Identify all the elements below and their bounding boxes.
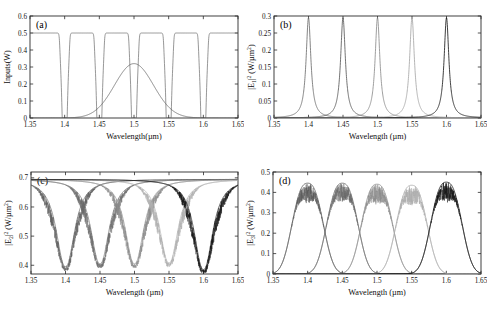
panel-a: 1.351.41.451.51.551.61.6500.10.20.30.40.… xyxy=(0,0,244,155)
plot-frame xyxy=(274,16,481,118)
panel-d: 1.351.41.451.51.551.61.6500.10.20.30.40.… xyxy=(243,154,487,309)
y-tick-label: 0.05 xyxy=(258,98,271,106)
y-tick-label: 0.5 xyxy=(18,30,27,38)
series-noise-dip-1500nm xyxy=(31,180,238,268)
plot-frame xyxy=(31,172,238,274)
y-tick-label: 0 xyxy=(267,115,271,123)
y-tick-label: 0 xyxy=(266,271,270,279)
figure-container: 1.351.41.451.51.551.61.6500.10.20.30.40.… xyxy=(0,0,487,309)
series-dip-1500nm xyxy=(31,180,238,264)
x-tick-label: 1.55 xyxy=(162,121,175,129)
series-dip-1450nm xyxy=(31,180,238,264)
y-axis-label: |E3|2 (W/µm2) xyxy=(245,200,256,246)
panel-tag-a: (a) xyxy=(36,19,47,31)
y-tick-label: 0.3 xyxy=(262,13,271,21)
y-tick-label: 0.2 xyxy=(262,47,271,55)
x-tick-label: 1.35 xyxy=(25,277,38,285)
y-tick-label: 0 xyxy=(23,115,27,123)
y-tick-label: 0.25 xyxy=(258,30,271,38)
y-tick-label: 0.4 xyxy=(261,189,270,197)
y-tick-label: 0.2 xyxy=(18,81,27,89)
y-tick-label: 0.2 xyxy=(261,230,270,238)
y-tick-label: 0.1 xyxy=(261,250,270,258)
y-tick-label: 0.7 xyxy=(19,174,28,182)
y-axis-label: Inputs(W) xyxy=(3,50,12,84)
series-mode-1550nm xyxy=(274,18,481,118)
series-mode-1600nm xyxy=(274,18,481,118)
series-noise-dip-1400nm xyxy=(31,179,238,270)
x-tick-label: 1.4 xyxy=(61,277,70,285)
x-axis-label: Wavelength (µm) xyxy=(106,288,164,297)
y-tick-label: 0.1 xyxy=(18,98,27,106)
x-tick-label: 1.55 xyxy=(163,277,176,285)
x-axis-label: Wavelength (µm) xyxy=(348,288,406,297)
x-tick-label: 1.45 xyxy=(94,277,107,285)
x-tick-label: 1.6 xyxy=(199,121,208,129)
series-mode-1400nm xyxy=(274,18,481,118)
series-noise-dip-1550nm xyxy=(31,180,238,268)
panel-b: 1.351.41.451.51.551.61.6500.050.10.150.2… xyxy=(243,0,487,155)
x-tick-label: 1.5 xyxy=(130,121,139,129)
series-noise-dip-1600nm xyxy=(31,179,238,273)
x-tick-label: 1.4 xyxy=(60,121,69,129)
series-noise-dip-1450nm xyxy=(31,180,238,268)
x-tick-label: 1.55 xyxy=(406,121,419,129)
x-tick-label: 1.6 xyxy=(199,277,208,285)
panel-b-plot: 1.351.41.451.51.551.61.6500.050.10.150.2… xyxy=(243,0,487,155)
panel-tag-d: (d) xyxy=(279,175,291,187)
x-tick-label: 1.65 xyxy=(475,277,487,285)
y-tick-label: 0.3 xyxy=(261,209,270,217)
x-axis-label: Wavelength(µm) xyxy=(106,132,162,141)
series-dip-1600nm xyxy=(31,179,238,269)
x-tick-label: 1.5 xyxy=(130,277,139,285)
panel-c-plot: 1.351.41.451.51.551.61.650.40.50.60.7(c)… xyxy=(0,154,244,309)
x-tick-label: 1.65 xyxy=(475,121,487,129)
x-tick-label: 1.5 xyxy=(373,121,382,129)
y-tick-label: 0.4 xyxy=(18,47,27,55)
panel-c: 1.351.41.451.51.551.61.650.40.50.60.7(c)… xyxy=(0,154,244,309)
series-dip-1550nm xyxy=(31,180,238,263)
y-tick-label: 0.6 xyxy=(19,204,28,212)
y-tick-label: 0.5 xyxy=(19,233,28,241)
plot-frame xyxy=(30,16,238,118)
y-axis-label: |E2|2 (W/µm2) xyxy=(3,200,14,246)
series-mode-1450nm xyxy=(274,18,481,118)
x-tick-label: 1.6 xyxy=(442,121,451,129)
y-tick-label: 0.15 xyxy=(258,64,271,72)
panel-a-plot: 1.351.41.451.51.551.61.6500.10.20.30.40.… xyxy=(0,0,244,155)
x-tick-label: 1.45 xyxy=(93,121,106,129)
series-mode-1500nm xyxy=(274,18,481,118)
y-tick-label: 0.3 xyxy=(18,64,27,72)
x-tick-label: 1.4 xyxy=(304,121,313,129)
y-tick-label: 0.1 xyxy=(262,81,271,89)
x-tick-label: 1.5 xyxy=(373,277,382,285)
y-axis-label: |E1|2 (W/µm2) xyxy=(246,44,257,90)
x-tick-label: 1.55 xyxy=(405,277,418,285)
x-axis-label: Wavelength (µm) xyxy=(349,132,407,141)
y-tick-label: 0.5 xyxy=(261,169,270,177)
x-tick-label: 1.4 xyxy=(303,277,312,285)
y-tick-label: 0.6 xyxy=(18,13,27,21)
panel-tag-b: (b) xyxy=(280,19,292,31)
y-tick-label: 0.4 xyxy=(19,262,28,270)
x-tick-label: 1.45 xyxy=(337,121,350,129)
x-tick-label: 1.6 xyxy=(442,277,451,285)
series-dip-1400nm xyxy=(31,179,238,266)
series-notched-input-level xyxy=(30,33,238,118)
x-tick-label: 1.45 xyxy=(336,277,349,285)
panel-d-plot: 1.351.41.451.51.551.61.6500.10.20.30.40.… xyxy=(243,154,487,309)
